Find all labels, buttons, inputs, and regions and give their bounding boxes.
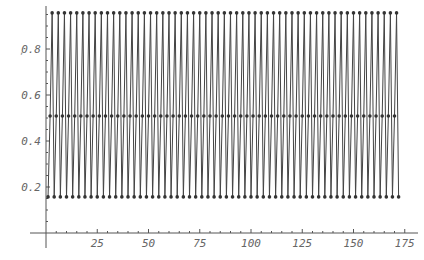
data-point (237, 195, 241, 199)
data-point (46, 195, 50, 199)
data-point (173, 11, 177, 15)
data-point (73, 114, 77, 118)
data-point (100, 11, 104, 15)
data-point (210, 11, 214, 15)
data-point (83, 195, 87, 199)
data-point (339, 11, 343, 15)
data-point (231, 195, 235, 199)
x-tick-label: 100 (241, 237, 261, 250)
data-point (358, 11, 362, 15)
data-point (239, 114, 243, 118)
data-point (196, 114, 200, 118)
data-point (200, 195, 204, 199)
data-point (65, 195, 69, 199)
data-point (294, 114, 298, 118)
data-point (276, 114, 280, 118)
data-point (241, 11, 245, 15)
data-point (151, 195, 155, 199)
data-point (362, 114, 366, 118)
data-point (354, 195, 358, 199)
data-point (374, 114, 378, 118)
data-point (245, 114, 249, 118)
data-point (212, 195, 216, 199)
data-point (221, 114, 225, 118)
data-point (257, 114, 261, 118)
data-point (247, 11, 251, 15)
line-chart: 2550751001251501750.20.40.60.8 , (0, 0, 424, 260)
y-tick-label: 0.8 (21, 43, 41, 56)
stray-mark: , (20, 45, 23, 56)
data-point (352, 11, 356, 15)
data-point (79, 114, 83, 118)
data-point (184, 114, 188, 118)
data-point (233, 114, 237, 118)
data-point (48, 114, 52, 118)
data-point (249, 195, 253, 199)
data-point (186, 11, 190, 15)
data-point (77, 195, 81, 199)
data-point (67, 114, 71, 118)
data-point (61, 114, 65, 118)
data-point (112, 11, 116, 15)
data-point (182, 195, 186, 199)
data-point (315, 11, 319, 15)
data-point (75, 11, 79, 15)
data-point (300, 114, 304, 118)
data-point (120, 195, 124, 199)
x-tick-label: 25 (91, 237, 104, 250)
data-point (198, 11, 202, 15)
data-point (266, 11, 270, 15)
x-tick-label: 75 (193, 237, 206, 250)
data-point (134, 114, 138, 118)
data-point (225, 195, 229, 199)
data-point (380, 114, 384, 118)
data-point (282, 114, 286, 118)
data-point (335, 195, 339, 199)
data-point (393, 114, 397, 118)
data-point (190, 114, 194, 118)
data-point (243, 195, 247, 199)
data-point (116, 114, 120, 118)
x-tick-label: 50 (142, 237, 156, 250)
data-point (153, 114, 157, 118)
data-point (229, 11, 233, 15)
data-point (319, 114, 323, 118)
data-point (104, 114, 108, 118)
y-tick-label: 0.6 (21, 89, 41, 102)
data-point (290, 11, 294, 15)
data-point (346, 11, 350, 15)
data-point (126, 195, 130, 199)
data-point (139, 195, 143, 199)
data-point (253, 11, 257, 15)
data-point (235, 11, 239, 15)
data-point (50, 11, 54, 15)
data-point (136, 11, 140, 15)
data-point (145, 195, 149, 199)
data-point (378, 195, 382, 199)
data-point (337, 114, 341, 118)
data-point (169, 195, 173, 199)
data-point (382, 11, 386, 15)
data-point (157, 195, 161, 199)
data-point (192, 11, 196, 15)
data-point (264, 114, 268, 118)
data-point (149, 11, 153, 15)
data-point (389, 11, 393, 15)
data-point (161, 11, 165, 15)
data-point (368, 114, 372, 118)
data-point (296, 11, 300, 15)
data-point (177, 114, 181, 118)
data-point (124, 11, 128, 15)
data-point (370, 11, 374, 15)
data-point (57, 11, 61, 15)
data-point (227, 114, 231, 118)
data-point (385, 195, 389, 199)
y-tick-label: 0.4 (21, 135, 41, 148)
data-point (85, 114, 89, 118)
data-point (313, 114, 317, 118)
data-point (366, 195, 370, 199)
data-point (216, 11, 220, 15)
data-point (143, 11, 147, 15)
data-point (214, 114, 218, 118)
data-point (188, 195, 192, 199)
